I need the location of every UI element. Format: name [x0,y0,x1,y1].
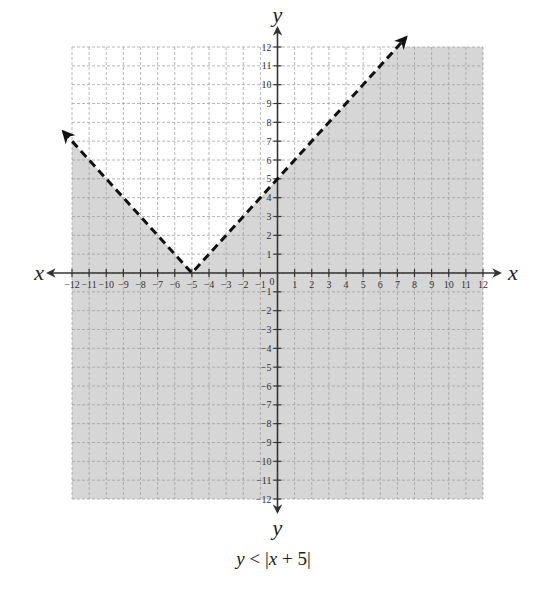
caption-var-y: y [236,548,244,569]
x-tick-label: −3 [221,279,232,290]
y-tick-label: −6 [261,381,272,392]
x-tick-label: −6 [169,279,180,290]
x-tick-label: 2 [309,279,314,290]
y-tick-label: 7 [267,136,272,147]
x-tick-label: 4 [344,279,349,290]
y-tick-label: 11 [262,60,272,71]
graph: −12−11−10−9−8−7−6−5−4−3−2−11234567891011… [0,0,547,545]
y-tick-label: 8 [267,117,272,128]
x-tick-label: −9 [118,279,129,290]
y-tick-label: 12 [262,42,272,53]
y-tick-label: 4 [267,192,272,203]
x-tick-label: −7 [152,279,163,290]
x-tick-label: −11 [81,279,96,290]
y-tick-label: −1 [261,286,272,297]
x-tick-label: 5 [361,279,366,290]
y-tick-label: −4 [261,343,272,354]
y-tick-label: −9 [261,437,272,448]
y-tick-label: −8 [261,418,272,429]
caption-op: < | [245,548,269,569]
inequality-caption: y < |x + 5| [0,548,547,570]
y-tick-label: −5 [261,362,272,373]
y-tick-label: −2 [261,305,272,316]
y-tick-label: −10 [256,456,272,467]
caption-rest: + 5| [277,548,311,569]
y-axis-label-top: y [271,2,283,27]
origin-label: 0 [270,276,275,287]
y-tick-label: −12 [256,494,272,505]
y-tick-label: 10 [262,79,272,90]
y-tick-label: 2 [267,230,272,241]
x-axis-label-left: x [33,260,44,285]
x-tick-label: −5 [187,279,198,290]
x-tick-label: 12 [478,279,488,290]
x-tick-label: −10 [98,279,114,290]
x-tick-label: 10 [444,279,454,290]
y-tick-label: 9 [267,98,272,109]
x-tick-label: 11 [461,279,471,290]
x-tick-label: 6 [378,279,383,290]
y-tick-label: −11 [256,475,271,486]
y-tick-label: 6 [267,155,272,166]
y-tick-label: −7 [261,399,272,410]
x-tick-label: −2 [238,279,249,290]
x-axis-label-right: x [507,260,518,285]
x-tick-label: 7 [395,279,400,290]
x-tick-label: −12 [64,279,80,290]
x-tick-label: 9 [429,279,434,290]
y-tick-label: 5 [267,173,272,184]
caption-var-x: x [269,548,277,569]
x-tick-label: 1 [292,279,297,290]
y-axis-label-bottom: y [271,515,283,540]
y-tick-label: 1 [267,249,272,260]
y-tick-label: 3 [267,211,272,222]
x-tick-label: 3 [326,279,331,290]
y-tick-label: −3 [261,324,272,335]
x-tick-label: 8 [412,279,417,290]
x-tick-label: −8 [135,279,146,290]
x-tick-label: −4 [204,279,215,290]
